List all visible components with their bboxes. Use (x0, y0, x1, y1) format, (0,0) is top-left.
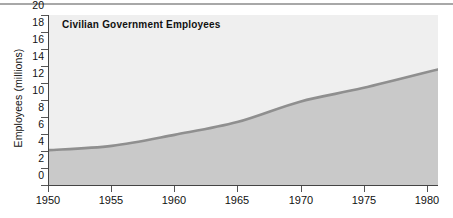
y-tick-mark-0 (41, 185, 48, 186)
x-tick-mark-1970 (301, 186, 302, 192)
y-tick-label-20: 20 (22, 0, 44, 10)
y-tick-mark-4 (41, 151, 48, 152)
x-tick-mark-1975 (364, 186, 365, 192)
x-axis-line (48, 185, 438, 186)
y-tick-label-16: 16 (22, 34, 44, 44)
y-tick-mark-14 (41, 66, 48, 67)
y-tick-mark-6 (41, 134, 48, 135)
y-tick-label-6: 6 (22, 119, 44, 129)
y-tick-label-10: 10 (22, 85, 44, 95)
x-tick-label-1970: 1970 (281, 194, 321, 206)
chart-title: Civilian Government Employees (62, 19, 221, 30)
x-tick-mark-1965 (237, 186, 238, 192)
y-axis-line (48, 15, 49, 186)
x-tick-label-1975: 1975 (344, 194, 384, 206)
x-tick-mark-1980 (427, 186, 428, 192)
chart-figure: Employees (millions) 0 2 4 6 8 10 12 14 … (0, 0, 453, 218)
y-tick-mark-12 (41, 83, 48, 84)
plot-area (49, 15, 438, 185)
x-tick-label-1950: 1950 (28, 194, 68, 206)
y-tick-mark-16 (41, 49, 48, 50)
x-tick-label-1980: 1980 (407, 194, 447, 206)
y-tick-label-14: 14 (22, 51, 44, 61)
y-tick-label-12: 12 (22, 68, 44, 78)
x-tick-label-1960: 1960 (154, 194, 194, 206)
y-tick-mark-2 (41, 168, 48, 169)
y-tick-mark-18 (41, 32, 48, 33)
x-tick-mark-1950 (48, 186, 49, 192)
y-tick-label-4: 4 (22, 136, 44, 146)
y-tick-label-2: 2 (22, 153, 44, 163)
x-tick-label-1965: 1965 (217, 194, 257, 206)
y-tick-mark-8 (41, 117, 48, 118)
y-tick-label-0: 0 (22, 170, 44, 180)
top-divider-rule (0, 3, 453, 5)
x-tick-label-1955: 1955 (91, 194, 131, 206)
y-tick-label-18: 18 (22, 17, 44, 27)
x-tick-mark-1955 (111, 186, 112, 192)
area-fill-path (49, 69, 438, 185)
y-tick-mark-20 (41, 15, 48, 16)
area-series-svg (49, 15, 438, 185)
y-tick-label-8: 8 (22, 102, 44, 112)
x-tick-mark-1960 (174, 186, 175, 192)
y-tick-mark-10 (41, 100, 48, 101)
